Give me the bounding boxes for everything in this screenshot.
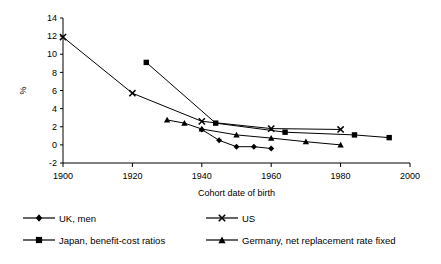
data-point-2-2	[282, 129, 287, 134]
series-line-1	[63, 37, 341, 129]
x-tick-label-1960: 1960	[261, 171, 281, 181]
x-tick-label-1940: 1940	[192, 171, 212, 181]
data-point-2-1	[213, 120, 218, 125]
legend-item-uk-men[interactable]: UK, men	[0, 212, 205, 224]
y-tick-label-10: 10	[47, 49, 57, 59]
x-axis-title: Cohort date of birth	[198, 188, 275, 198]
legend-label-germany: Germany, net replacement rate fixed	[242, 235, 395, 246]
legend-marker-triangle-icon	[205, 234, 239, 246]
legend-row-1: UK, men US	[0, 207, 441, 229]
legend-item-us[interactable]: US	[205, 212, 441, 224]
legend-marker-diamond-icon	[22, 212, 56, 224]
data-point-0-3	[251, 144, 257, 150]
legend-marker-x-icon	[205, 212, 239, 224]
y-tick-label-2: 2	[52, 122, 57, 132]
data-point-0-2	[234, 144, 240, 150]
legend-item-germany[interactable]: Germany, net replacement rate fixed	[205, 234, 441, 246]
x-tick-label-1900: 1900	[53, 171, 73, 181]
plot-area: -202468101214190019201940196019802000Coh…	[0, 0, 441, 210]
line-chart-svg: -202468101214190019201940196019802000Coh…	[0, 0, 441, 210]
y-tick-label--2: -2	[49, 158, 57, 168]
y-tick-label-8: 8	[52, 68, 57, 78]
data-point-0-1	[216, 137, 222, 143]
y-tick-label-0: 0	[52, 140, 57, 150]
legend-marker-square-icon	[22, 234, 56, 246]
data-point-3-0	[164, 117, 170, 123]
x-tick-label-1920: 1920	[122, 171, 142, 181]
legend-row-2: Japan, benefit-cost ratios Germany, net …	[0, 229, 441, 251]
data-point-2-3	[352, 132, 357, 137]
y-tick-label-12: 12	[47, 31, 57, 41]
x-tick-label-1980: 1980	[331, 171, 351, 181]
legend-item-japan[interactable]: Japan, benefit-cost ratios	[0, 234, 205, 246]
legend-label-japan: Japan, benefit-cost ratios	[59, 235, 165, 246]
data-point-0-4	[268, 146, 274, 152]
x-tick-label-2000: 2000	[400, 171, 420, 181]
legend-label-us: US	[242, 213, 255, 224]
y-tick-label-6: 6	[52, 86, 57, 96]
y-tick-label-4: 4	[52, 104, 57, 114]
series-line-2	[146, 62, 389, 137]
chart-legend: UK, men US Japan, benefit-cost ratios	[0, 207, 441, 264]
y-tick-label-14: 14	[47, 13, 57, 23]
chart-figure: -202468101214190019201940196019802000Coh…	[0, 0, 441, 264]
data-point-2-0	[144, 60, 149, 65]
y-axis-title: %	[18, 86, 28, 94]
data-point-2-4	[386, 135, 391, 140]
legend-label-uk-men: UK, men	[59, 213, 96, 224]
series-line-3	[167, 120, 341, 145]
